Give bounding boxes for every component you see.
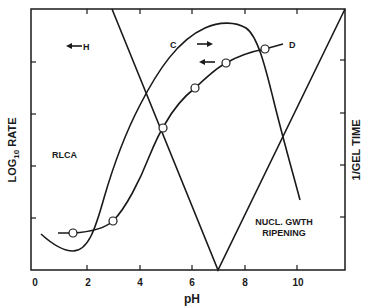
x-tick-label: 2 [85, 277, 91, 288]
c-label: C [170, 40, 177, 50]
data-point-marker [159, 124, 167, 132]
data-point-marker [222, 59, 230, 67]
ripening-label: RIPENING [262, 228, 306, 238]
data-point-marker [69, 229, 77, 237]
d-label: D [289, 40, 296, 50]
data-point-marker [261, 45, 269, 53]
data-point-marker [191, 84, 199, 92]
x-tick-label: 0 [32, 277, 38, 288]
rlca-label: RLCA [52, 150, 77, 160]
x-axis-title: pH [184, 292, 200, 306]
gel-time-v-line [112, 9, 345, 270]
y-right-axis-title: 1/GEL TIME [350, 120, 362, 181]
nucl-gwth-label: NUCL. GWTH [255, 217, 313, 227]
curve-d-markers [69, 45, 269, 237]
h-arrowhead-icon [66, 43, 72, 49]
x-tick-label: 6 [189, 277, 195, 288]
data-point-marker [109, 217, 117, 225]
d-arrowhead-icon [199, 59, 205, 65]
x-tick-label: 10 [292, 277, 304, 288]
y-left-axis-title: LOG10 RATE [6, 118, 21, 183]
x-tick-label: 8 [242, 277, 248, 288]
c-arrowhead-icon [207, 41, 213, 47]
chart: 0 2 4 6 8 10 pH LOG10 RATE 1/GEL TIME H … [0, 0, 389, 306]
h-label: H [83, 42, 90, 52]
x-tick-label: 4 [137, 277, 143, 288]
h-annotation: H [66, 42, 90, 52]
